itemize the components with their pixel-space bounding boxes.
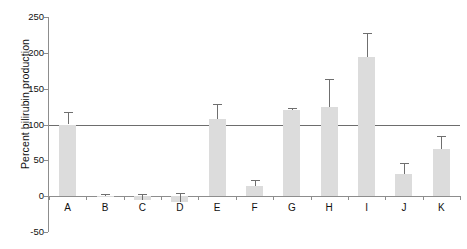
x-tick-label-H: H xyxy=(309,202,349,213)
y-tick-label: -50 xyxy=(18,227,44,237)
x-tick-mark xyxy=(161,196,162,200)
error-cap-A xyxy=(64,112,73,113)
y-tick-label: 200 xyxy=(18,48,44,58)
error-cap-H xyxy=(325,79,334,80)
y-tick-mark xyxy=(44,232,48,233)
x-tick-mark xyxy=(460,196,461,200)
x-tick-mark xyxy=(236,196,237,200)
y-axis-tick-labels: -50050100150200250 xyxy=(16,0,44,249)
x-tick-mark xyxy=(49,196,50,200)
x-tick-label-J: J xyxy=(384,202,424,213)
x-tick-mark xyxy=(311,196,312,200)
x-tick-mark xyxy=(273,196,274,200)
error-cap-E xyxy=(213,104,222,105)
x-tick-mark xyxy=(124,196,125,200)
bar-H xyxy=(321,107,338,196)
error-bar-I xyxy=(367,33,368,57)
x-tick-mark xyxy=(198,196,199,200)
x-tick-label-B: B xyxy=(85,202,125,213)
error-bar-K xyxy=(441,136,442,149)
reference-line-100 xyxy=(49,125,460,126)
bar-K xyxy=(433,149,450,196)
y-tick-label: 100 xyxy=(18,120,44,130)
error-bar-J xyxy=(404,163,405,174)
x-tick-mark xyxy=(86,196,87,200)
x-tick-label-A: A xyxy=(48,202,88,213)
bar-A xyxy=(59,125,76,197)
bilirubin-bar-chart: Percent bilirubin production -5005010015… xyxy=(0,0,467,249)
error-bar-E xyxy=(217,104,218,119)
error-cap-G xyxy=(288,108,297,109)
error-bar-H xyxy=(329,79,330,108)
error-cap-I xyxy=(363,33,372,34)
error-cap-D xyxy=(176,193,185,194)
bar-B xyxy=(97,196,114,197)
error-bar-A xyxy=(68,112,69,124)
bar-E xyxy=(209,119,226,196)
error-cap-B xyxy=(101,194,110,195)
error-bar-D xyxy=(180,193,181,202)
x-tick-label-G: G xyxy=(272,202,312,213)
x-tick-label-C: C xyxy=(122,202,162,213)
x-tick-mark xyxy=(348,196,349,200)
bar-I xyxy=(358,57,375,196)
error-cap-J xyxy=(400,163,409,164)
error-cap-F xyxy=(251,180,260,181)
y-tick-label: 150 xyxy=(18,84,44,94)
x-tick-label-D: D xyxy=(160,202,200,213)
y-tick-label: 250 xyxy=(18,12,44,22)
y-tick-label: 50 xyxy=(18,155,44,165)
bar-J xyxy=(395,174,412,196)
y-tick-label: 0 xyxy=(18,191,44,201)
x-tick-mark xyxy=(385,196,386,200)
error-cap-K xyxy=(437,136,446,137)
bar-G xyxy=(283,110,300,196)
x-tick-label-K: K xyxy=(421,202,461,213)
x-tick-label-I: I xyxy=(347,202,387,213)
x-tick-label-F: F xyxy=(235,202,275,213)
x-tick-label-E: E xyxy=(197,202,237,213)
error-cap-C xyxy=(138,194,147,195)
bar-F xyxy=(246,186,263,196)
x-tick-mark xyxy=(423,196,424,200)
